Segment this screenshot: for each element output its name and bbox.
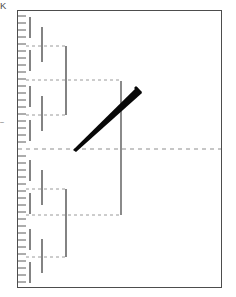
plot-frame: [18, 11, 222, 288]
dendrogram-canvas: [0, 0, 236, 297]
dendrogram-figure: K –: [0, 0, 236, 297]
axis-glyph-mid-left: –: [0, 118, 4, 125]
axis-glyph-top-left: K: [0, 2, 6, 11]
